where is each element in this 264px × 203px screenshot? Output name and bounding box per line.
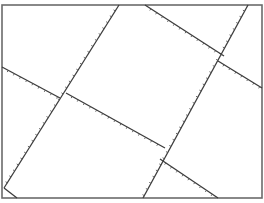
tick-mark xyxy=(80,63,82,64)
tick-mark xyxy=(173,24,174,26)
tick-mark xyxy=(35,134,37,135)
tick-mark xyxy=(241,76,242,78)
tick-mark xyxy=(114,10,116,11)
tick-mark xyxy=(65,87,67,88)
tick-mark xyxy=(106,22,108,23)
tick-mark xyxy=(102,28,104,29)
tick-mark xyxy=(88,51,90,52)
tick-mark xyxy=(211,194,212,196)
tick-mark xyxy=(185,32,186,34)
segment-shallow-right-b xyxy=(218,61,262,88)
tick-mark xyxy=(179,28,180,30)
tick-mark xyxy=(253,83,254,85)
tick-mark xyxy=(247,79,248,81)
tick-mark xyxy=(20,158,22,159)
tick-mark xyxy=(99,34,101,35)
tick-mark xyxy=(188,179,189,181)
tick-mark xyxy=(167,20,168,22)
segment-shallow-left-c xyxy=(160,159,218,198)
tick-mark xyxy=(61,93,63,94)
tick-mark xyxy=(171,167,172,169)
tick-mark xyxy=(32,140,34,141)
tick-mark xyxy=(194,182,195,184)
tick-mark xyxy=(223,65,224,67)
tick-mark xyxy=(235,72,236,74)
tick-mark xyxy=(6,182,8,183)
tick-mark xyxy=(24,152,26,153)
segment-corner-stub xyxy=(4,188,17,198)
tick-mark xyxy=(165,163,166,165)
tick-mark xyxy=(176,171,177,173)
tick-mark xyxy=(259,87,260,89)
tick-mark xyxy=(162,16,163,18)
tick-mark xyxy=(200,186,201,188)
tick-mark xyxy=(58,99,60,100)
tick-mark xyxy=(182,175,183,177)
line-diagram xyxy=(0,0,264,203)
tick-mark xyxy=(214,51,215,53)
tick-mark xyxy=(150,9,151,11)
tick-mark xyxy=(203,43,204,45)
tick-mark xyxy=(43,122,45,123)
tick-mark xyxy=(205,190,206,192)
tick-mark xyxy=(91,45,93,46)
tick-mark xyxy=(39,128,41,129)
tick-mark xyxy=(84,57,86,58)
tick-mark xyxy=(197,39,198,41)
tick-mark xyxy=(209,47,210,49)
tick-mark xyxy=(69,81,71,82)
diagram-canvas xyxy=(0,0,264,203)
tick-mark xyxy=(191,35,192,37)
tick-mark xyxy=(156,13,157,15)
tick-mark xyxy=(17,164,19,165)
segment-steep-left xyxy=(4,5,119,188)
segment-shallow-left-b xyxy=(66,93,165,148)
tick-mark xyxy=(50,111,52,112)
frame-rectangle xyxy=(2,5,262,198)
tick-mark xyxy=(54,105,56,106)
tick-mark xyxy=(13,170,15,171)
tick-mark xyxy=(9,176,11,177)
tick-mark xyxy=(95,39,97,40)
tick-mark xyxy=(76,69,78,70)
tick-mark xyxy=(47,117,49,118)
tick-mark xyxy=(229,68,230,70)
tick-mark xyxy=(28,146,30,147)
line-segments xyxy=(2,5,262,198)
tick-mark xyxy=(73,75,75,76)
segment-shallow-right-a xyxy=(145,5,224,56)
segment-steep-right xyxy=(143,5,248,198)
tick-mark xyxy=(110,16,112,17)
